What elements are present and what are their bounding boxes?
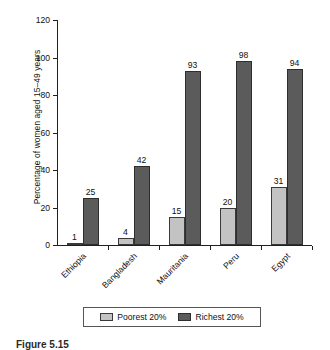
x-separator-tick (210, 246, 211, 250)
category-label-text: Ethiopia (59, 251, 88, 280)
y-tick-label: 80 (10, 90, 50, 100)
chart-legend: Poorest 20%Richest 20% (83, 307, 261, 327)
bar-value-label: 93 (179, 60, 207, 70)
y-tick (53, 133, 57, 134)
y-tick-label: 20 (10, 203, 50, 213)
x-axis-line (57, 245, 312, 246)
y-tick (53, 245, 57, 246)
category-label-peru: Peru (221, 251, 241, 271)
y-tick-label: 60 (10, 128, 50, 138)
bar-value-label: 94 (281, 58, 309, 68)
x-separator-tick (312, 246, 313, 250)
y-tick (53, 20, 57, 21)
bar-value-label: 98 (230, 50, 258, 60)
legend-label: Poorest 20% (117, 312, 166, 322)
bar-bangladesh-richest[interactable] (134, 166, 150, 245)
category-label-text: Bangladesh (99, 251, 138, 290)
y-tick (53, 95, 57, 96)
bar-value-label: 25 (77, 187, 105, 197)
category-label-ethiopia: Ethiopia (59, 251, 88, 280)
bar-mauritania-richest[interactable] (185, 71, 201, 245)
x-separator-tick (159, 246, 160, 250)
legend-entry-richest[interactable]: Richest 20% (178, 312, 243, 322)
x-separator-tick (108, 246, 109, 250)
y-tick-label: 120 (10, 15, 50, 25)
bar-mauritania-poorest[interactable] (169, 217, 185, 245)
y-tick (53, 170, 57, 171)
category-label-text: Peru (221, 251, 241, 271)
category-label-text: Mauritania (154, 251, 189, 286)
plot-area: 020406080100120 125442159320983194 (57, 20, 312, 245)
y-tick (53, 208, 57, 209)
legend-label: Richest 20% (195, 312, 243, 322)
bar-value-label: 42 (128, 155, 156, 165)
bar-bangladesh-poorest[interactable] (118, 238, 134, 246)
y-tick (53, 58, 57, 59)
figure-caption: Figure 5.15 (16, 339, 326, 350)
y-tick-label: 40 (10, 165, 50, 175)
legend-entry-poorest[interactable]: Poorest 20% (100, 312, 166, 322)
category-label-text: Egypt (269, 251, 292, 274)
legend-swatch-icon (178, 313, 191, 321)
bar-egypt-poorest[interactable] (271, 187, 287, 245)
x-separator-tick (261, 246, 262, 250)
category-label-egypt: Egypt (269, 251, 292, 274)
y-axis-line (57, 20, 58, 245)
category-label-bangladesh: Bangladesh (99, 251, 138, 290)
bar-egypt-richest[interactable] (287, 69, 303, 245)
bar-peru-richest[interactable] (236, 61, 252, 245)
y-tick-label: 0 (10, 240, 50, 250)
bar-ethiopia-poorest[interactable] (67, 243, 83, 245)
legend-swatch-icon (100, 313, 113, 321)
y-tick-label: 100 (10, 53, 50, 63)
category-label-mauritania: Mauritania (154, 251, 189, 286)
bar-peru-poorest[interactable] (220, 208, 236, 246)
figure-caption-label: Figure 5.15 (16, 339, 69, 350)
bar-ethiopia-richest[interactable] (83, 198, 99, 245)
